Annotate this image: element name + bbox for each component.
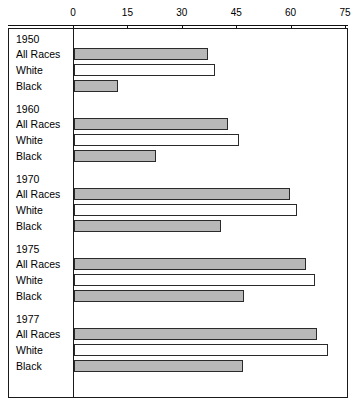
group-year-label: 1960 [16, 104, 39, 115]
bar [74, 204, 297, 216]
group-year-label: 1975 [16, 244, 39, 255]
bar-category-label: Black [16, 361, 42, 372]
bar [74, 344, 328, 356]
bar-category-label: White [16, 345, 43, 356]
bar [74, 220, 221, 232]
bar-group: 1975All RacesWhiteBlack [0, 244, 358, 314]
bar-category-label: All Races [16, 49, 60, 60]
bar-category-label: Black [16, 221, 42, 232]
x-axis-line [8, 25, 348, 26]
bar-category-label: All Races [16, 189, 60, 200]
bar-row: All Races [0, 118, 358, 130]
bar [74, 360, 243, 372]
bar-row: All Races [0, 328, 358, 340]
bar [74, 274, 315, 286]
bar-row: All Races [0, 48, 358, 60]
x-axis-tick-label: 45 [231, 8, 242, 18]
bar [74, 290, 244, 302]
bar-category-label: All Races [16, 119, 60, 130]
bar-category-label: White [16, 275, 43, 286]
bar-category-label: All Races [16, 329, 60, 340]
bar-row: White [0, 64, 358, 76]
group-year-label: 1977 [16, 314, 39, 325]
bar [74, 188, 290, 200]
bar [74, 258, 306, 270]
bar-category-label: Black [16, 81, 42, 92]
bar [74, 48, 208, 60]
x-axis-tick-label: 0 [70, 8, 76, 18]
bar-group: 1950All RacesWhiteBlack [0, 34, 358, 104]
bar-row: White [0, 344, 358, 356]
bar-row: White [0, 204, 358, 216]
x-axis-tick-label: 15 [122, 8, 133, 18]
bar-row: Black [0, 360, 358, 372]
x-axis-tick-label: 75 [339, 8, 350, 18]
x-axis-tick-label: 30 [176, 8, 187, 18]
bar [74, 328, 317, 340]
bar-group: 1970All RacesWhiteBlack [0, 174, 358, 244]
bar [74, 64, 215, 76]
bar-category-label: Black [16, 151, 42, 162]
bar-group: 1960All RacesWhiteBlack [0, 104, 358, 174]
bar [74, 118, 228, 130]
bar-category-label: White [16, 135, 43, 146]
bar [74, 80, 118, 92]
bar [74, 134, 239, 146]
bar-row: Black [0, 80, 358, 92]
bar-category-label: White [16, 65, 43, 76]
x-axis: 01530456075 [0, 0, 358, 28]
bar-row: White [0, 274, 358, 286]
bar-category-label: White [16, 205, 43, 216]
bar-category-label: All Races [16, 259, 60, 270]
bar-row: Black [0, 150, 358, 162]
bar-row: All Races [0, 258, 358, 270]
x-axis-tick-label: 60 [285, 8, 296, 18]
bar-chart: 01530456075 1950All RacesWhiteBlack1960A… [0, 0, 358, 408]
bar-category-label: Black [16, 291, 42, 302]
bar-row: Black [0, 290, 358, 302]
bar-row: All Races [0, 188, 358, 200]
bar-row: White [0, 134, 358, 146]
bar [74, 150, 156, 162]
group-year-label: 1950 [16, 34, 39, 45]
bar-row: Black [0, 220, 358, 232]
bar-group: 1977All RacesWhiteBlack [0, 314, 358, 384]
group-year-label: 1970 [16, 174, 39, 185]
